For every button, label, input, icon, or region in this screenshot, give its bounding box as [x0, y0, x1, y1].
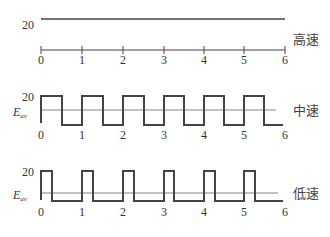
x-tick-4: 4	[201, 128, 207, 142]
x-tick-0: 0	[38, 128, 44, 142]
y-label-20: 20	[22, 18, 34, 32]
x-tick-5: 5	[241, 128, 247, 142]
x-tick-6: 6	[282, 53, 288, 67]
label-low-speed: 低速	[293, 186, 319, 201]
x-tick-3: 3	[161, 128, 167, 142]
panel-medium-speed: 20 Eav 0 1 2 3 4 5 6 中速	[12, 90, 319, 142]
x-tick-3: 3	[161, 53, 167, 67]
x-tick-4: 4	[201, 205, 207, 219]
label-high-speed: 高速	[293, 32, 319, 47]
y-label-20: 20	[22, 90, 34, 104]
x-tick-2: 2	[120, 205, 126, 219]
x-tick-1: 1	[79, 205, 85, 219]
y-label-eav: Eav	[12, 188, 28, 203]
speed-waveform-diagram: 20 0 1 2 3 4 5 6 高速 20 Eav 0 1 2 3 4 5 6…	[0, 0, 330, 237]
square-wave	[41, 96, 283, 125]
x-tick-1: 1	[79, 53, 85, 67]
pulse-wave	[41, 171, 283, 201]
y-label-20: 20	[22, 165, 34, 179]
panel-low-speed: 20 Eav 0 1 2 3 4 5 6 低速	[12, 165, 319, 219]
x-tick-5: 5	[241, 205, 247, 219]
x-tick-6: 6	[282, 128, 288, 142]
x-tick-3: 3	[161, 205, 167, 219]
x-tick-0: 0	[38, 205, 44, 219]
x-tick-6: 6	[282, 205, 288, 219]
label-medium-speed: 中速	[293, 103, 319, 118]
x-tick-5: 5	[241, 53, 247, 67]
y-label-eav: Eav	[12, 105, 28, 120]
x-tick-2: 2	[120, 128, 126, 142]
x-tick-0: 0	[38, 53, 44, 67]
x-tick-1: 1	[79, 128, 85, 142]
x-tick-2: 2	[120, 53, 126, 67]
x-tick-4: 4	[201, 53, 207, 67]
panel-high-speed: 20 0 1 2 3 4 5 6 高速	[22, 18, 319, 67]
